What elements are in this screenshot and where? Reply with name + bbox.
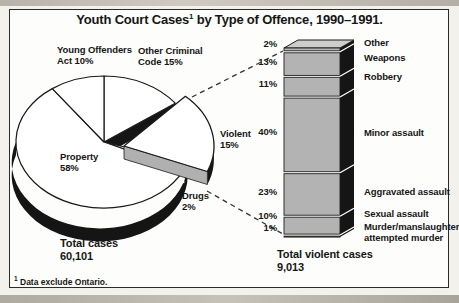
bar-label-aggravated-assault: Aggravated assault <box>364 186 456 197</box>
bar-percent-aggravated-assault: 23% <box>238 186 277 197</box>
pie-total-value: 60,101 <box>60 250 118 263</box>
bar-total-value: 9,013 <box>277 261 373 274</box>
chart-title-rest: by Type of Offence, 1990–1991. <box>193 12 382 27</box>
bar-label-sexual-assault: Sexual assault <box>364 208 456 219</box>
bar-label-minor-assault: Minor assault <box>364 127 456 138</box>
scan-edge-bottom <box>0 295 459 303</box>
pie-label-drugs: Drugs 2% <box>182 190 209 212</box>
bar-percent-other: 2% <box>238 38 277 49</box>
bar-label-other: Other <box>364 37 456 48</box>
footnote-text: Data exclude Ontario. <box>20 277 107 287</box>
pie-label-property: Property 58% <box>60 151 98 173</box>
bar-total-label: Total violent cases <box>277 248 373 261</box>
figure-youth-court-cases: Youth Court Cases1 by Type of Offence, 1… <box>0 0 459 303</box>
bar-label-murder-manslaughter-attempted-murder: Murder/manslaughter/ attempted murder <box>364 221 456 243</box>
scan-edge-top <box>0 0 459 6</box>
chart-title-main: Youth Court Cases <box>76 12 189 27</box>
bar-percent-sexual-assault: 10% <box>238 210 277 221</box>
bar-percent-robbery: 11% <box>238 78 277 89</box>
bar-percent-murder-manslaughter-attempted-murder: 1% <box>238 222 277 233</box>
chart-title: Youth Court Cases1 by Type of Offence, 1… <box>10 12 449 27</box>
bar-percent-minor-assault: 40% <box>238 126 277 137</box>
bar-label-weapons: Weapons <box>364 52 456 63</box>
bar-label-robbery: Robbery <box>364 71 456 82</box>
pie-label-other-criminal-code: Other Criminal Code 15% <box>138 45 203 67</box>
footnote: 1 Data exclude Ontario. <box>14 275 107 287</box>
pie-label-young-offenders-act: Young Offenders Act 10% <box>57 44 132 66</box>
bar-total: Total violent cases 9,013 <box>277 248 373 274</box>
bar-percent-weapons: 13% <box>238 56 277 67</box>
pie-total-label: Total cases <box>60 237 118 250</box>
pie-total: Total cases 60,101 <box>60 237 118 263</box>
footnote-marker: 1 <box>14 275 18 282</box>
